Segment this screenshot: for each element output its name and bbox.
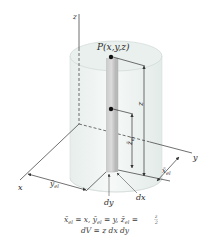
volume-element-column xyxy=(106,58,118,172)
equation-line-2: dV = z dx dy xyxy=(81,226,130,235)
point-p xyxy=(109,55,113,59)
fraction-denominator: 2 xyxy=(154,220,158,225)
y-axis-label: y xyxy=(192,153,198,162)
centroid-point xyxy=(109,107,113,111)
y-centroid-label: ȳel xyxy=(49,179,59,189)
triple-integral-diagram: z x y P(x,y,z) z z̄el x̄el xyxy=(0,0,207,248)
z-dimension-label: z xyxy=(136,101,145,107)
dx-label: dx xyxy=(136,193,146,202)
x-centroid-label: x̄el xyxy=(162,167,171,176)
point-label: P(x,y,z) xyxy=(96,42,130,52)
fraction-numerator: z xyxy=(154,214,158,219)
equation-line-1: x̄el = x, ȳel = y, z̄el = xyxy=(64,215,138,225)
z-axis-label: z xyxy=(72,13,77,21)
dy-label: dy xyxy=(104,198,114,207)
x-axis-label: x xyxy=(18,183,23,192)
centroid-equations: x̄el = x, ȳel = y, z̄el = z 2 dV = z dx … xyxy=(64,214,158,235)
